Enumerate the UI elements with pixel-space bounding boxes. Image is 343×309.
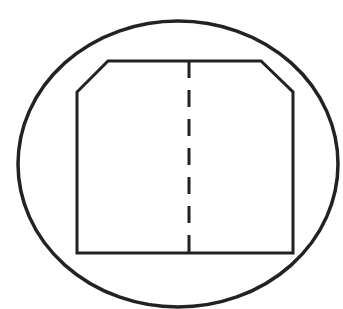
chamfered-rectangle-shape <box>77 61 293 253</box>
diagram-svg <box>0 0 343 309</box>
outer-ellipse <box>18 21 338 307</box>
diagram-canvas <box>0 0 343 309</box>
